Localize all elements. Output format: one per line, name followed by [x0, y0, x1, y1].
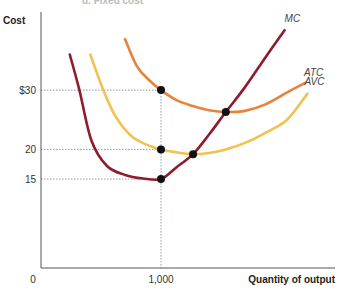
highlight-point: [157, 86, 165, 94]
y-tick-label: $30: [19, 85, 36, 96]
y-axis-label: Cost: [3, 15, 26, 26]
x-tick-label: 1,000: [148, 274, 173, 285]
curve-mc: [70, 30, 285, 180]
cost-curves-chart: d. Fixed cost Cost Quantity of output $3…: [0, 0, 352, 297]
highlight-point: [222, 108, 230, 116]
x-axis-label: Quantity of output: [248, 274, 335, 285]
curve-label-mc: MC: [285, 13, 301, 24]
highlight-point: [157, 175, 165, 183]
curve-label-avc: AVC: [303, 76, 325, 87]
y-tick-label: 20: [25, 144, 37, 155]
y-tick-label: 15: [25, 174, 37, 185]
x-tick-label: 0: [30, 274, 36, 285]
highlight-point: [157, 145, 165, 153]
curve-atc: [125, 39, 305, 112]
curve-avc: [90, 55, 307, 155]
highlight-point: [189, 150, 197, 158]
caption-fragment: d. Fixed cost: [82, 0, 144, 6]
